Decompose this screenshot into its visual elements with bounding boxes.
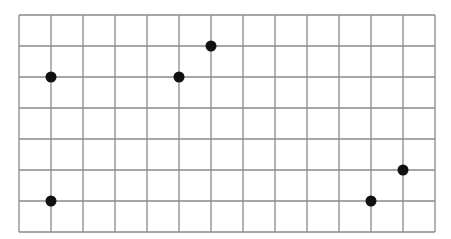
grid-dot — [174, 72, 185, 83]
grid-dot — [46, 72, 57, 83]
grid-dot — [206, 41, 217, 52]
grid-dots — [46, 41, 409, 207]
grid-dot — [46, 196, 57, 207]
grid-dot — [366, 196, 377, 207]
grid-dot — [398, 165, 409, 176]
dot-grid-diagram — [0, 0, 451, 239]
